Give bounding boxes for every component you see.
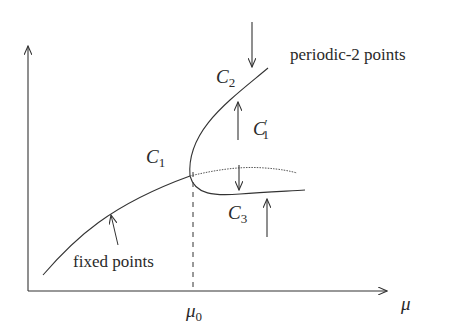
arrow-to-fixed-points — [111, 215, 118, 245]
label-mu0: μ0 — [186, 301, 202, 323]
c1-prime-branch — [190, 167, 297, 176]
c3-branch — [190, 176, 305, 195]
label-periodic-2-points: periodic-2 points — [290, 46, 406, 63]
label-mu-axis: μ — [401, 294, 411, 313]
label-c1-prime: C′1 — [253, 117, 269, 141]
label-fixed-points: fixed points — [73, 253, 154, 270]
label-c3: C3 — [228, 203, 247, 225]
label-c2: C2 — [216, 67, 235, 89]
label-c1-bifurcation: C1 — [146, 147, 165, 169]
